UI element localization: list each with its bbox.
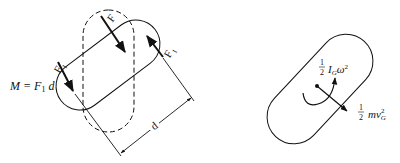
trans-sub: G — [381, 114, 386, 122]
trans-frac-num: 1 — [359, 103, 363, 112]
trans-term: mv — [368, 108, 381, 120]
dimension-extension-right — [163, 58, 194, 101]
svg-text:IGω2: IGω2 — [327, 63, 349, 77]
moment-label: M = F — [9, 79, 42, 93]
left-figure: F F 1 F 1 d M = F1 d — [9, 10, 194, 156]
force-F-label: F — [104, 12, 117, 24]
translational-energy-label: 1 2 mvG2 — [358, 103, 386, 122]
svg-text:M = F1 d: M = F1 d — [9, 79, 55, 94]
dimension-extension-left — [75, 94, 121, 156]
rot-frac-den: 2 — [320, 68, 324, 77]
rotation-arrow — [303, 78, 335, 105]
rot-exp: 2 — [345, 63, 349, 71]
rot-frac-num: 1 — [320, 58, 324, 67]
diagram-canvas: F F 1 F 1 d M = F1 d — [0, 0, 400, 163]
right-figure: 1 2 IGω2 1 2 mvG2 — [256, 23, 386, 155]
trans-exp: 2 — [381, 107, 385, 115]
moment-tail: d — [45, 79, 55, 93]
rotational-energy-label: 1 2 IGω2 — [319, 58, 349, 77]
trans-frac-den: 2 — [359, 113, 363, 122]
svg-text:mvG2: mvG2 — [368, 107, 386, 122]
